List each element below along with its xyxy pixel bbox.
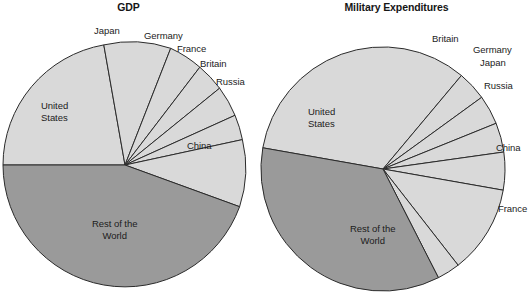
pie-label-united-states-line1: United	[41, 100, 68, 112]
pie-label-rest-of-world-line2: World	[350, 235, 395, 247]
pie-label-rest-of-world-line1: Rest of the	[350, 223, 395, 235]
pie-label-rest-of-world: Rest of the World	[92, 218, 137, 242]
chart-panel-military: Military Expenditures Britain Germany Ja…	[258, 0, 529, 295]
pie-label-united-states-line2: States	[41, 112, 68, 124]
pie-label-rest-of-world: Rest of the World	[350, 223, 395, 247]
pie-label-russia: Russia	[484, 80, 513, 92]
pie-label-france: France	[177, 43, 206, 55]
pie-label-rest-of-world-line1: Rest of the	[92, 218, 137, 230]
pie-label-rest-of-world-line2: World	[92, 230, 137, 242]
pie-label-united-states: United States	[41, 100, 68, 124]
pie-label-germany: Germany	[144, 30, 183, 42]
pie-chart-gdp	[0, 0, 265, 295]
pie-label-britain: Britain	[200, 58, 227, 70]
pie-label-japan: Japan	[480, 57, 506, 69]
pie-label-france: France	[498, 203, 527, 215]
pie-label-britain: Britain	[432, 33, 459, 45]
pie-label-united-states: United States	[308, 106, 335, 130]
pie-label-united-states-line2: States	[308, 118, 335, 130]
chart-panel-gdp: GDP Japan Germany France Britain Russia …	[0, 0, 265, 295]
pie-label-china: China	[187, 140, 212, 152]
pie-label-china: China	[496, 142, 521, 154]
pie-label-russia: Russia	[216, 76, 245, 88]
pie-label-japan: Japan	[94, 25, 120, 37]
pie-label-united-states-line1: United	[308, 106, 335, 118]
pie-label-germany: Germany	[473, 44, 512, 56]
